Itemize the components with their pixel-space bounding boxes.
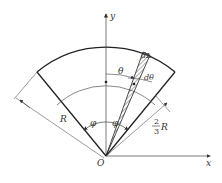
element-strip <box>106 52 150 156</box>
theta-label: θ <box>118 66 124 76</box>
element-centroid-dot <box>133 83 136 86</box>
two-thirds-ext <box>155 95 170 112</box>
dL-label: dL <box>141 51 151 60</box>
dtheta-label: dθ <box>144 73 154 82</box>
frac-denominator: 3 <box>154 127 159 136</box>
phi-left-label: φ <box>90 118 97 128</box>
sector-diagram: y x O R φ φ θ dθ dL 2 3 R <box>0 0 222 183</box>
y-axis-label: y <box>109 11 116 21</box>
radius-ext <box>14 72 37 99</box>
phi-right-label: φ <box>112 118 119 128</box>
radius-arrow <box>20 100 30 108</box>
frac-numerator: 2 <box>154 117 159 126</box>
diagram-canvas: y x O R φ φ θ dθ dL 2 3 R <box>0 0 222 183</box>
origin-label: O <box>97 158 105 168</box>
sector-edge-left <box>37 72 106 156</box>
centroid-dot <box>105 81 108 84</box>
frac-variable: R <box>160 122 168 132</box>
sector-edge-right <box>106 72 175 156</box>
radius-label: R <box>59 114 67 124</box>
x-axis-label: x <box>206 158 211 168</box>
